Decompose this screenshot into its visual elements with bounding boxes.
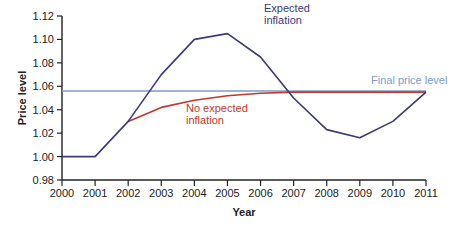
y-tick-label: 1.10 — [33, 33, 54, 45]
x-tick-label: 2001 — [83, 187, 107, 199]
annotation-final-price-level: Final price level — [371, 74, 447, 86]
x-tick-label: 2011 — [414, 187, 438, 199]
y-tick-label: 1.02 — [33, 127, 54, 139]
y-tick-label: 1.04 — [33, 104, 54, 116]
annotation-expected-inflation-line1: Expected — [264, 2, 310, 14]
price-level-chart: 0.981.001.021.041.061.081.101.1220002001… — [0, 0, 456, 228]
y-tick-label: 1.00 — [33, 151, 54, 163]
x-axis-title: Year — [232, 206, 256, 218]
x-tick-label: 2007 — [281, 187, 305, 199]
y-tick-label: 1.06 — [33, 80, 54, 92]
no-expected-inflation-line — [128, 92, 426, 121]
x-tick-label: 2002 — [116, 187, 140, 199]
y-axis-title: Price level — [16, 71, 28, 125]
x-tick-label: 2008 — [314, 187, 338, 199]
annotation-no-expected-inflation-line1: No expected — [186, 102, 248, 114]
annotation-expected-inflation-line2: inflation — [264, 14, 302, 26]
x-tick-label: 2004 — [182, 187, 206, 199]
x-tick-label: 2010 — [381, 187, 405, 199]
x-tick-label: 2000 — [50, 187, 74, 199]
x-tick-label: 2005 — [215, 187, 239, 199]
annotation-no-expected-inflation-line2: inflation — [186, 114, 224, 126]
y-tick-label: 1.12 — [33, 10, 54, 22]
x-tick-label: 2003 — [149, 187, 173, 199]
x-tick-label: 2006 — [248, 187, 272, 199]
y-tick-label: 0.98 — [33, 174, 54, 186]
x-tick-label: 2009 — [348, 187, 372, 199]
y-tick-label: 1.08 — [33, 57, 54, 69]
